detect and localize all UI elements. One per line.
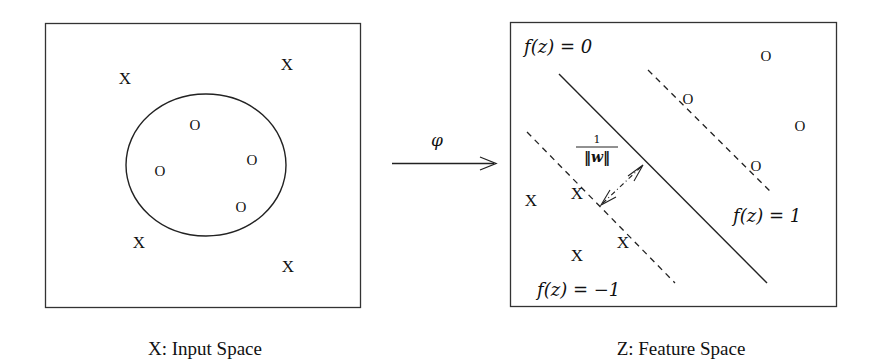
positive-margin-label: f(z) = 1	[731, 205, 801, 226]
feature-space-caption: Z: Feature Space	[617, 338, 746, 359]
margin-numerator: 1	[594, 133, 601, 146]
feature-x-point: X	[571, 184, 583, 203]
hyperplane-label: f(z) = 0	[522, 36, 592, 57]
feature-o-points: O O O O	[683, 48, 806, 174]
feature-x-point: X	[525, 191, 537, 210]
input-space-box	[46, 24, 361, 308]
feature-o-point: O	[761, 48, 772, 64]
margin-denominator: ‖w‖	[584, 149, 610, 166]
phi-mapping-label: φ	[431, 130, 443, 150]
input-x-point: X	[119, 69, 131, 88]
margin-width-arrow	[603, 167, 641, 203]
input-o-points: O O O O	[155, 117, 258, 215]
input-space-caption: X: Input Space	[148, 338, 262, 359]
negative-margin-label: f(z) = −1	[535, 279, 620, 300]
input-x-point: X	[281, 55, 293, 74]
class-boundary-circle	[126, 94, 286, 236]
positive-margin-line	[648, 70, 772, 193]
feature-x-points: X X X X	[525, 184, 629, 265]
feature-x-point: X	[571, 246, 583, 265]
input-x-points: X X X X	[119, 55, 294, 276]
feature-o-point: O	[795, 118, 806, 134]
feature-o-point: O	[683, 91, 694, 107]
separating-hyperplane	[559, 74, 767, 283]
svm-kernel-diagram: X X X X O O O O X: Input Space φ 1 ‖w‖ f…	[0, 0, 873, 364]
input-o-point: O	[236, 199, 247, 215]
feature-x-point: X	[617, 233, 629, 252]
margin-width-label: 1 ‖w‖	[576, 133, 618, 166]
input-o-point: O	[155, 163, 166, 179]
feature-o-point: O	[751, 158, 762, 174]
input-x-point: X	[133, 233, 145, 252]
input-o-point: O	[247, 152, 258, 168]
input-x-point: X	[282, 257, 294, 276]
input-o-point: O	[190, 117, 201, 133]
